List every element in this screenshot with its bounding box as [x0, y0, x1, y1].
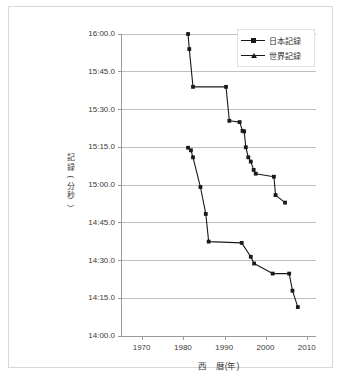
data-point-marker	[242, 130, 246, 134]
data-point-marker	[291, 289, 295, 293]
data-point-marker	[187, 47, 191, 51]
y-axis-title-char: )	[66, 197, 76, 213]
series-japan-record	[186, 146, 300, 309]
data-point-marker	[252, 168, 256, 172]
data-point-marker	[238, 120, 242, 124]
data-point-marker	[271, 272, 275, 276]
data-point-marker	[296, 305, 300, 309]
data-point-marker	[207, 240, 211, 244]
y-tick-label: 15:45.0	[67, 67, 115, 76]
chart-screenshot: 記録(分秒) 西 暦(年) 日本記録 世界記録 14:00.014:15	[0, 0, 340, 376]
x-tick-label: 2010	[287, 343, 327, 352]
chart-frame: 記録(分秒) 西 暦(年) 日本記録 世界記録 14:00.014:15	[8, 6, 333, 368]
y-axis-title-char: 記	[63, 153, 79, 163]
data-point-marker	[227, 119, 231, 123]
x-tick-label: 1980	[163, 343, 203, 352]
x-tick-label: 2000	[245, 343, 285, 352]
data-point-marker	[204, 212, 208, 216]
series-line	[188, 148, 298, 307]
x-tick-label: 1990	[204, 343, 244, 352]
data-point-marker	[191, 155, 195, 159]
data-point-marker	[199, 185, 203, 189]
y-tick-label: 15:15.0	[67, 142, 115, 151]
legend-item-japan-record[interactable]: 日本記録	[240, 33, 311, 48]
data-point-marker	[272, 175, 276, 179]
data-point-marker	[246, 155, 250, 159]
data-point-marker	[252, 262, 256, 266]
data-point-marker	[249, 255, 253, 259]
legend-item-world-record[interactable]: 世界記録	[240, 48, 311, 63]
data-point-marker	[287, 272, 291, 276]
data-point-marker	[274, 193, 278, 197]
legend-marker-square-icon	[240, 36, 266, 46]
x-axis-title: 西 暦(年)	[121, 359, 316, 371]
legend-label: 世界記録	[266, 50, 301, 61]
data-point-marker	[283, 201, 287, 205]
x-tick-mark	[307, 336, 308, 340]
legend-label: 日本記録	[266, 35, 301, 46]
y-tick-label: 15:30.0	[67, 105, 115, 114]
x-tick-mark	[225, 336, 226, 340]
data-point-marker	[240, 241, 244, 245]
plot-area	[121, 34, 316, 337]
y-tick-label: 14:00.0	[67, 331, 115, 340]
chart-legend: 日本記録 世界記録	[237, 29, 315, 67]
x-tick-mark	[266, 336, 267, 340]
data-point-marker	[186, 32, 190, 36]
data-point-marker	[189, 148, 193, 152]
data-point-marker	[191, 85, 195, 89]
legend-marker-triangle-icon	[240, 51, 266, 61]
data-point-marker	[244, 145, 248, 149]
series-layer	[122, 34, 316, 336]
y-tick-label: 14:45.0	[67, 218, 115, 227]
data-point-marker	[249, 160, 253, 164]
y-tick-label: 14:30.0	[67, 256, 115, 265]
y-tick-label: 14:15.0	[67, 293, 115, 302]
x-tick-label: 1970	[122, 343, 162, 352]
data-point-marker	[224, 85, 228, 89]
x-tick-mark	[142, 336, 143, 340]
y-tick-label: 16:00.0	[67, 29, 115, 38]
data-point-marker	[254, 172, 258, 176]
x-tick-mark	[183, 336, 184, 340]
y-tick-label: 15:00.0	[67, 180, 115, 189]
